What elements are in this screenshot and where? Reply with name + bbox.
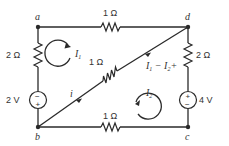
current-diag-label: I1 − I2+ bbox=[145, 60, 177, 72]
node-b bbox=[36, 125, 40, 129]
loop-I1-label: I1 bbox=[74, 48, 81, 60]
node-a bbox=[36, 25, 40, 29]
top-branch: 1 Ω bbox=[38, 8, 188, 31]
bottom-branch: 1 Ω bbox=[38, 111, 188, 131]
circuit-diagram: 1 Ω − + 2 Ω 2 V + − 2 Ω 4 V 1 Ω 1 Ω bbox=[0, 0, 229, 146]
loop-I2: I2 bbox=[135, 87, 161, 119]
vs-right-bottom-sign: − bbox=[185, 100, 190, 109]
resistor-diagonal-label: 1 Ω bbox=[89, 57, 104, 67]
resistor-top-label: 1 Ω bbox=[103, 8, 118, 18]
nodes: a d b c bbox=[35, 11, 191, 142]
node-d bbox=[186, 25, 190, 29]
node-c-label: c bbox=[185, 131, 190, 142]
right-branch: + − 2 Ω 4 V bbox=[180, 27, 213, 127]
resistor-bottom-label: 1 Ω bbox=[103, 111, 118, 121]
loop-I1: I1 bbox=[45, 40, 81, 66]
voltage-source-left-label: 2 V bbox=[6, 95, 20, 105]
node-d-label: d bbox=[185, 11, 191, 22]
resistor-right bbox=[184, 43, 192, 67]
resistor-right-label: 2 Ω bbox=[196, 50, 211, 60]
vs-left-bottom-sign: + bbox=[36, 100, 41, 109]
node-c bbox=[186, 125, 190, 129]
voltage-source-right-label: 4 V bbox=[199, 95, 213, 105]
node-a-label: a bbox=[35, 11, 40, 22]
resistor-left bbox=[34, 43, 42, 67]
loop-I2-label: I2 bbox=[145, 87, 152, 99]
resistor-left-label: 2 Ω bbox=[6, 50, 21, 60]
resistor-bottom bbox=[101, 123, 120, 131]
resistor-diagonal bbox=[103, 67, 117, 83]
resistor-top bbox=[101, 23, 120, 31]
current-i-label: i bbox=[70, 88, 73, 99]
left-branch: − + 2 Ω 2 V bbox=[6, 27, 47, 127]
node-b-label: b bbox=[35, 131, 40, 142]
